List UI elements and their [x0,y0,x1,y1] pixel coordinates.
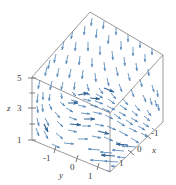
bounding-box-wireframe [32,12,163,172]
y-tick-label-1: 1 [88,171,93,181]
x-tick-label-neg1: -1 [151,128,159,138]
z-tick-label-3: 3 [17,103,22,113]
x-tick-label-0: 0 [137,144,142,154]
box-top-face [32,12,163,113]
x-axis-label: x [151,145,156,155]
y-axis-label: y [58,170,63,180]
plot-canvas: 5 3 1 z -1 0 1 y 1 0 -1 x [0,0,176,185]
y-tick-label-neg1: -1 [43,153,51,163]
z-tick-label-1: 1 [17,135,22,145]
vector-field-plot: 5 3 1 z -1 0 1 y 1 0 -1 x [0,0,176,185]
y-tick-label-0: 0 [70,162,75,172]
x-tick-label-1: 1 [119,158,124,168]
z-axis-label: z [6,103,11,113]
z-tick-label-5: 5 [17,73,22,83]
